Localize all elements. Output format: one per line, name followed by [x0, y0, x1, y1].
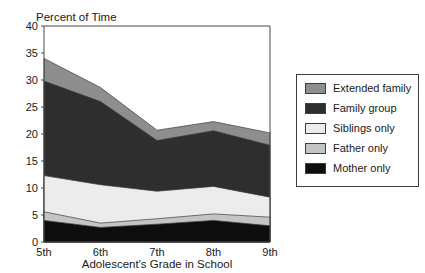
legend-swatch — [305, 123, 326, 134]
legend-label: Mother only — [333, 163, 390, 174]
y-tick-label: 35 — [26, 47, 38, 59]
legend-item: Father only — [305, 142, 411, 155]
x-tick-label: 9th — [262, 246, 277, 258]
y-tick-label: 15 — [26, 155, 38, 167]
y-tick-label: 5 — [32, 209, 38, 221]
legend-item: Mother only — [305, 162, 411, 175]
x-tick-label: 7th — [149, 246, 164, 258]
y-tick-label: 30 — [26, 74, 38, 86]
x-tick-label: 6th — [93, 246, 108, 258]
legend-item: Extended family — [305, 82, 411, 95]
x-axis-ticks: 5th6th7th8th9th — [36, 246, 277, 258]
x-tick-label: 5th — [36, 246, 51, 258]
legend-swatch — [305, 103, 326, 114]
y-tick-label: 20 — [26, 128, 38, 140]
chart-legend: Extended familyFamily groupSiblings only… — [296, 74, 419, 187]
legend-swatch — [305, 163, 326, 174]
y-tick-label: 25 — [26, 101, 38, 113]
y-tick-label: 40 — [26, 20, 38, 32]
legend-swatch — [305, 83, 326, 94]
legend-item: Siblings only — [305, 122, 411, 135]
x-tick-label: 8th — [206, 246, 221, 258]
y-tick-label: 10 — [26, 182, 38, 194]
y-axis-ticks: 0510152025303540 — [26, 20, 44, 248]
legend-items-list: Extended familyFamily groupSiblings only… — [305, 82, 411, 175]
legend-swatch — [305, 143, 326, 154]
legend-label: Family group — [333, 103, 397, 114]
legend-label: Father only — [333, 143, 388, 154]
area-bands-group — [44, 58, 270, 242]
chart-title: Percent of Time — [36, 11, 117, 23]
legend-label: Extended family — [333, 83, 411, 94]
chart-page: Percent of Time 0510152025303540 5th6th7… — [0, 0, 425, 273]
legend-label: Siblings only — [333, 123, 395, 134]
legend-item: Family group — [305, 102, 411, 115]
x-axis-title: Adolescent's Grade in School — [82, 258, 233, 270]
